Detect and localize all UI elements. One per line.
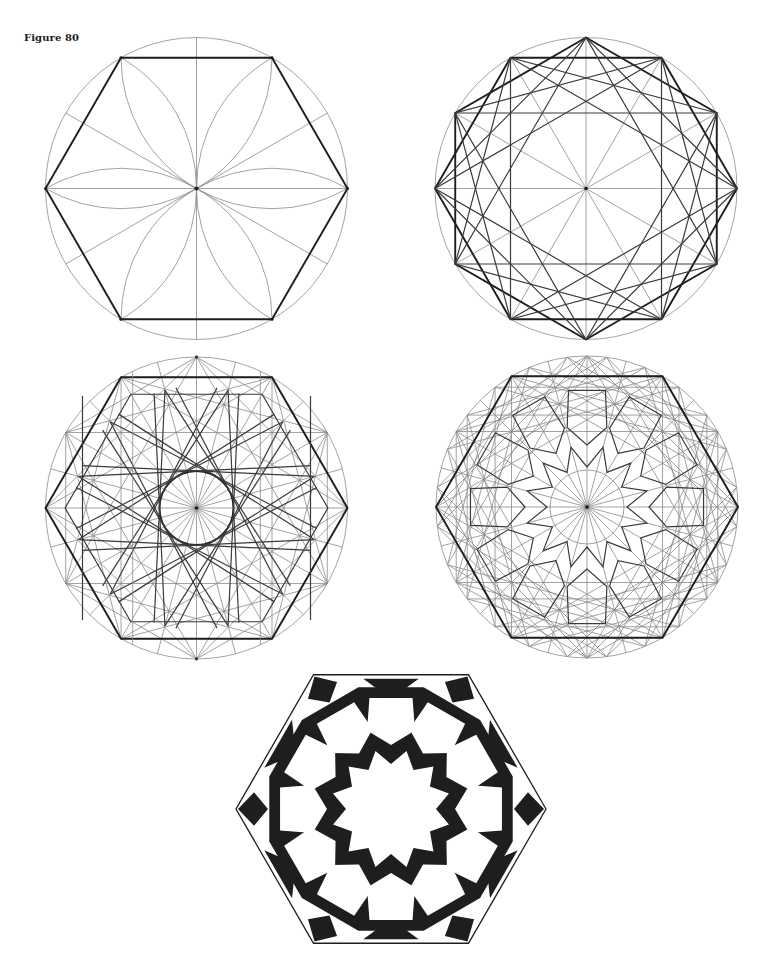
vertex-dot (195, 658, 198, 661)
vertex-dot (270, 318, 273, 321)
vertex-dot (346, 187, 349, 190)
vertex-dot (44, 187, 47, 190)
panel-2-twelve-point-polygons (435, 38, 737, 340)
center-dot (585, 505, 589, 509)
center-dot (584, 187, 588, 191)
vertex-dot (119, 318, 122, 321)
figure-canvas (0, 0, 781, 974)
central-star (333, 751, 449, 867)
panel-4-full-construction (436, 356, 738, 658)
center-dot (195, 506, 199, 510)
center-dot (195, 187, 199, 191)
vertex-dot (195, 356, 198, 359)
panel-3-star-construction (46, 356, 348, 661)
panel-5-finished-tile (236, 675, 546, 943)
vertex-dot (119, 56, 122, 59)
vertex-dot (270, 56, 273, 59)
panel-1-hexagon-petals (44, 38, 349, 340)
